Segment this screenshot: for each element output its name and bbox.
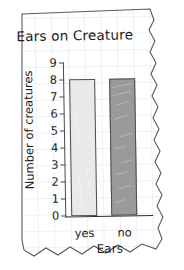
y-axis-label: Number of creatures — [21, 55, 37, 205]
y-tick-3: 3 — [44, 160, 58, 172]
y-tick-1: 1 — [45, 194, 59, 206]
chart-title: Ears on Creature — [16, 26, 133, 44]
y-tick-9: 9 — [43, 58, 57, 70]
x-axis-label: Ears — [66, 241, 154, 256]
y-tick-5: 5 — [44, 126, 58, 138]
x-category-yes: yes — [69, 226, 99, 240]
y-tick-0: 0 — [45, 211, 59, 223]
chart-screenshot: Ears on Creature Number of creatures 9 8… — [0, 0, 184, 270]
bar-yes[interactable] — [69, 79, 97, 216]
y-tick-6: 6 — [44, 109, 58, 121]
bar-yes-texture — [70, 80, 96, 215]
bar-no-texture — [110, 79, 136, 214]
bar-chart: Ears on Creature Number of creatures 9 8… — [0, 0, 184, 270]
y-axis-line — [63, 62, 66, 217]
bar-no[interactable] — [109, 78, 137, 215]
y-tick-7: 7 — [43, 92, 57, 104]
x-category-no: no — [109, 225, 139, 239]
y-tick-8: 8 — [43, 75, 57, 87]
y-tick-2: 2 — [45, 177, 59, 189]
y-tick-4: 4 — [44, 143, 58, 155]
